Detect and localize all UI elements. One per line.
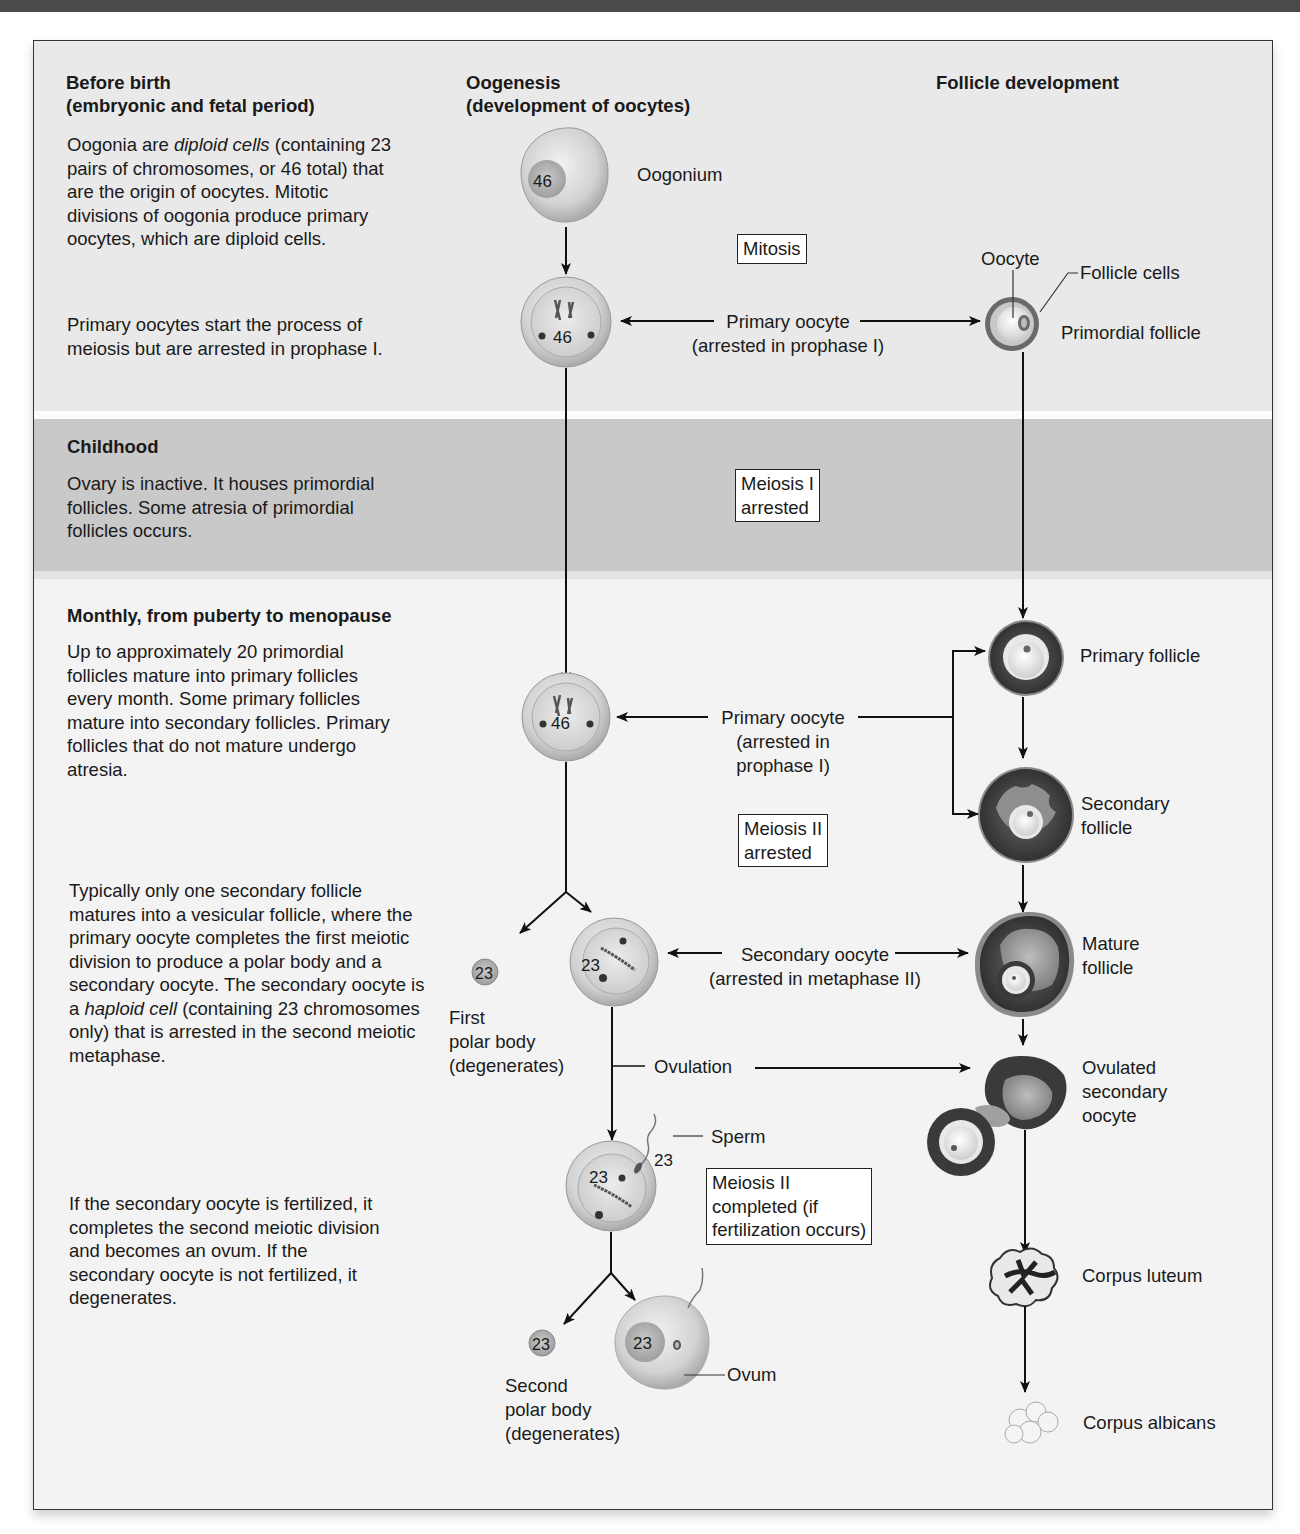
before-birth-text: Oogonia are diploid cells (containing 23… [67,133,397,251]
corpus-luteum-label: Corpus luteum [1082,1264,1202,1288]
second-polar-body-chromosome-count: 23 [532,1333,550,1357]
ovum-label: Ovum [727,1363,776,1387]
primary-follicle-image [988,620,1064,696]
sperm-label: Sperm [711,1125,766,1149]
monthly-title: Monthly, from puberty to menopause [67,604,391,628]
primary-oocyte-2-label: Primary oocyte (arrested in prophase I) [708,706,858,778]
corpus-albicans-label: Corpus albicans [1083,1411,1216,1435]
meiosis-1-arrested-box: Meiosis I arrested [735,469,820,522]
oocyte-label: Oocyte [981,247,1040,271]
oogonium-label: Oogonium [637,163,722,187]
primary-oocyte-1-label: Primary oocyte (arrested in prophase I) [676,310,900,358]
primordial-follicle-image [985,297,1039,351]
second-polar-body-label: Second polar body (degenerates) [505,1374,620,1446]
childhood-text: Ovary is inactive. It houses primordial … [67,472,397,543]
fertilization-text: If the secondary oocyte is fertilized, i… [69,1192,389,1310]
first-polar-body-chromosome-count: 23 [475,962,493,986]
corpus-luteum-image [990,1248,1058,1306]
meiosis-2-completed-box: Meiosis II completed (if fertilization o… [706,1168,872,1245]
secondary-oocyte-label: Secondary oocyte (arrested in metaphase … [690,943,940,991]
vesicular-follicle-text: Typically only one secondary follicle ma… [69,879,434,1067]
secondary-follicle-label: Secondary follicle [1081,792,1169,840]
stage-column-header: Before birth (embryonic and fetal period… [66,71,315,117]
header-line: (development of oocytes) [466,94,690,117]
diploid-term: diploid cells [174,134,270,155]
mitosis-box: Mitosis [737,234,807,264]
sperm-tail [688,1268,703,1308]
fertilized-oocyte-chromosome-count: 23 [589,1166,608,1190]
oogonium-chromosome-count: 46 [533,170,552,194]
follicle-column-header: Follicle development [936,71,1119,95]
primary-oocyte-1-chromosome-count: 46 [553,326,572,350]
secondary-follicle-image [978,767,1074,863]
ovulated-secondary-oocyte-label: Ovulated secondary oocyte [1082,1056,1167,1128]
before-birth-text-2: Primary oocytes start the process of mei… [67,313,387,360]
oogenesis-column-header: Oogenesis (development of oocytes) [466,71,690,117]
primary-oocyte-cell-1 [521,277,611,367]
childhood-title: Childhood [67,435,158,459]
ovulation-label: Ovulation [654,1055,732,1079]
mature-follicle-label: Mature follicle [1082,932,1140,980]
primary-oocyte-2-chromosome-count: 46 [551,712,570,736]
first-polar-body-label: First polar body (degenerates) [449,1006,564,1078]
sperm-chromosome-count: 23 [654,1149,673,1173]
ovum-cell [615,1268,709,1389]
follicle-cells-label: Follicle cells [1080,261,1180,285]
ovulated-secondary-oocyte-image [927,1056,1066,1176]
primary-follicle-label: Primary follicle [1080,644,1200,668]
haploid-term: haploid cell [84,998,177,1019]
meiosis-2-arrested-box: Meiosis II arrested [738,814,828,867]
mature-follicle-image [975,912,1074,1017]
header-line: (embryonic and fetal period) [66,94,315,117]
ovum-chromosome-count: 23 [633,1332,652,1356]
secondary-oocyte-chromosome-count: 23 [581,954,600,978]
header-line: Before birth [66,71,315,94]
header-line: Oogenesis [466,71,690,94]
monthly-text: Up to approximately 20 primordial follic… [67,640,407,781]
corpus-albicans-image [1005,1402,1058,1443]
primordial-follicle-label: Primordial follicle [1061,321,1201,345]
